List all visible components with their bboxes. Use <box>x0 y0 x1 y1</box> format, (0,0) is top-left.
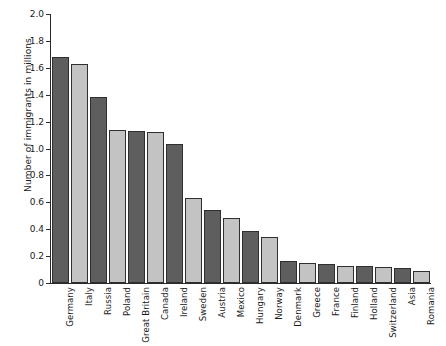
bar <box>109 130 126 283</box>
x-axis-label: Poland <box>109 287 126 343</box>
y-axis-tick-label: 1.6 <box>0 63 44 73</box>
bar <box>71 64 88 283</box>
bar-chart: Number of immigrants in millions 2.01.81… <box>0 0 446 346</box>
x-axis-label: Mexico <box>223 287 240 343</box>
y-axis-tick-label: 1.8 <box>0 36 44 46</box>
plot-area <box>51 14 431 283</box>
x-axis-label: Norway <box>261 287 278 343</box>
x-axis-label-text: Romania <box>426 287 436 325</box>
y-axis-tick-label: 0.6 <box>0 197 44 207</box>
bar <box>318 264 335 283</box>
bar <box>337 266 354 283</box>
bar <box>166 144 183 283</box>
y-axis-tick-label: 0 <box>0 278 44 288</box>
x-axis-label: Canada <box>147 287 164 343</box>
x-axis-label: Great Britain <box>128 287 145 343</box>
bar <box>280 261 297 283</box>
x-axis-label: Holland <box>356 287 373 343</box>
x-axis-label: Austria <box>204 287 221 343</box>
x-axis-label: Germany <box>52 287 69 343</box>
x-axis-label: Denmark <box>280 287 297 343</box>
bar <box>356 266 373 283</box>
bar <box>375 267 392 283</box>
x-axis-label: Ireland <box>166 287 183 343</box>
bar <box>52 57 69 283</box>
x-axis-label: Italy <box>71 287 88 343</box>
y-axis-tick-label: 0.2 <box>0 251 44 261</box>
bar <box>261 237 278 283</box>
bar <box>413 271 430 283</box>
y-axis-tick-label: 0.8 <box>0 170 44 180</box>
x-axis-labels: GermanyItalyRussiaPolandGreat BritainCan… <box>51 287 431 345</box>
x-axis-label: Russia <box>90 287 107 343</box>
bar <box>223 218 240 283</box>
bar <box>128 131 145 283</box>
x-axis-line <box>50 283 431 284</box>
bar <box>242 231 259 283</box>
bar <box>204 210 221 283</box>
bar <box>394 268 411 283</box>
x-axis-label: Asia <box>394 287 411 343</box>
bar <box>147 132 164 283</box>
y-axis-tick-label: 2.0 <box>0 9 44 19</box>
x-axis-label: Romania <box>413 287 430 343</box>
bar <box>185 198 202 283</box>
x-axis-label: Greece <box>299 287 316 343</box>
x-axis-label: Finland <box>337 287 354 343</box>
y-axis-tick-label: 0.4 <box>0 224 44 234</box>
x-axis-label: France <box>318 287 335 343</box>
x-axis-label: Hungary <box>242 287 259 343</box>
y-axis-tick-label: 1.2 <box>0 117 44 127</box>
y-axis-tick-label: 1.4 <box>0 90 44 100</box>
x-axis-label: Switzerland <box>375 287 392 343</box>
x-axis-label: Sweden <box>185 287 202 343</box>
bar <box>90 97 107 283</box>
y-axis-tick-label: 1.0 <box>0 144 44 154</box>
bar <box>299 263 316 283</box>
